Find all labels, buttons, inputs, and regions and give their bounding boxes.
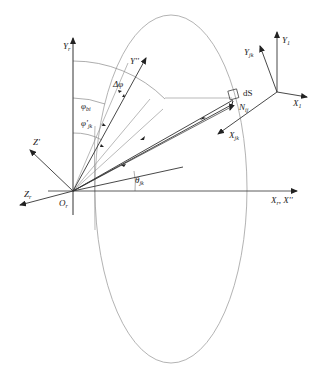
label-y-double-prime: Y'' (130, 57, 139, 66)
label-z-prime: Z' (33, 138, 40, 147)
label-y-r: Yr (63, 42, 70, 52)
label-phi-bi: φbi (81, 102, 91, 112)
diagram-svg (0, 0, 321, 379)
label-ds: dS (243, 89, 253, 98)
label-delta-phi: Δφ (113, 80, 123, 89)
arrowhead-phi-1 (102, 123, 106, 126)
arrowhead-ray-a (140, 136, 145, 140)
theta-line (73, 167, 183, 191)
diagram-canvas: Yr Y'' Δφ φbi φ'jk Z' Zr Or θjk Xr, X'' … (0, 0, 321, 379)
label-y-jk: Yjk (244, 48, 253, 58)
y-jk-axis (260, 46, 277, 92)
vector-to-ds-1 (73, 100, 233, 191)
x-1-axis (277, 92, 307, 97)
label-x-axis: Xr, X'' (271, 196, 293, 206)
label-n-ij: Nij (239, 103, 248, 113)
x-jk-axis (218, 92, 277, 134)
arrowhead-phi-2 (100, 144, 104, 147)
arrowhead-dphi-2 (122, 94, 125, 97)
label-x-1: X1 (293, 99, 302, 109)
label-phi-jk: φ'jk (81, 119, 92, 129)
z-prime-axis (30, 150, 73, 191)
label-theta-jk: θjk (135, 176, 144, 186)
label-z-r: Zr (24, 190, 31, 200)
arrowhead-dphi-1 (118, 90, 122, 93)
label-x-jk: Xjk (229, 131, 239, 141)
label-origin-o-r: Or (59, 199, 68, 209)
label-y-1: Y1 (282, 36, 290, 46)
ellipse-outline (95, 15, 247, 363)
